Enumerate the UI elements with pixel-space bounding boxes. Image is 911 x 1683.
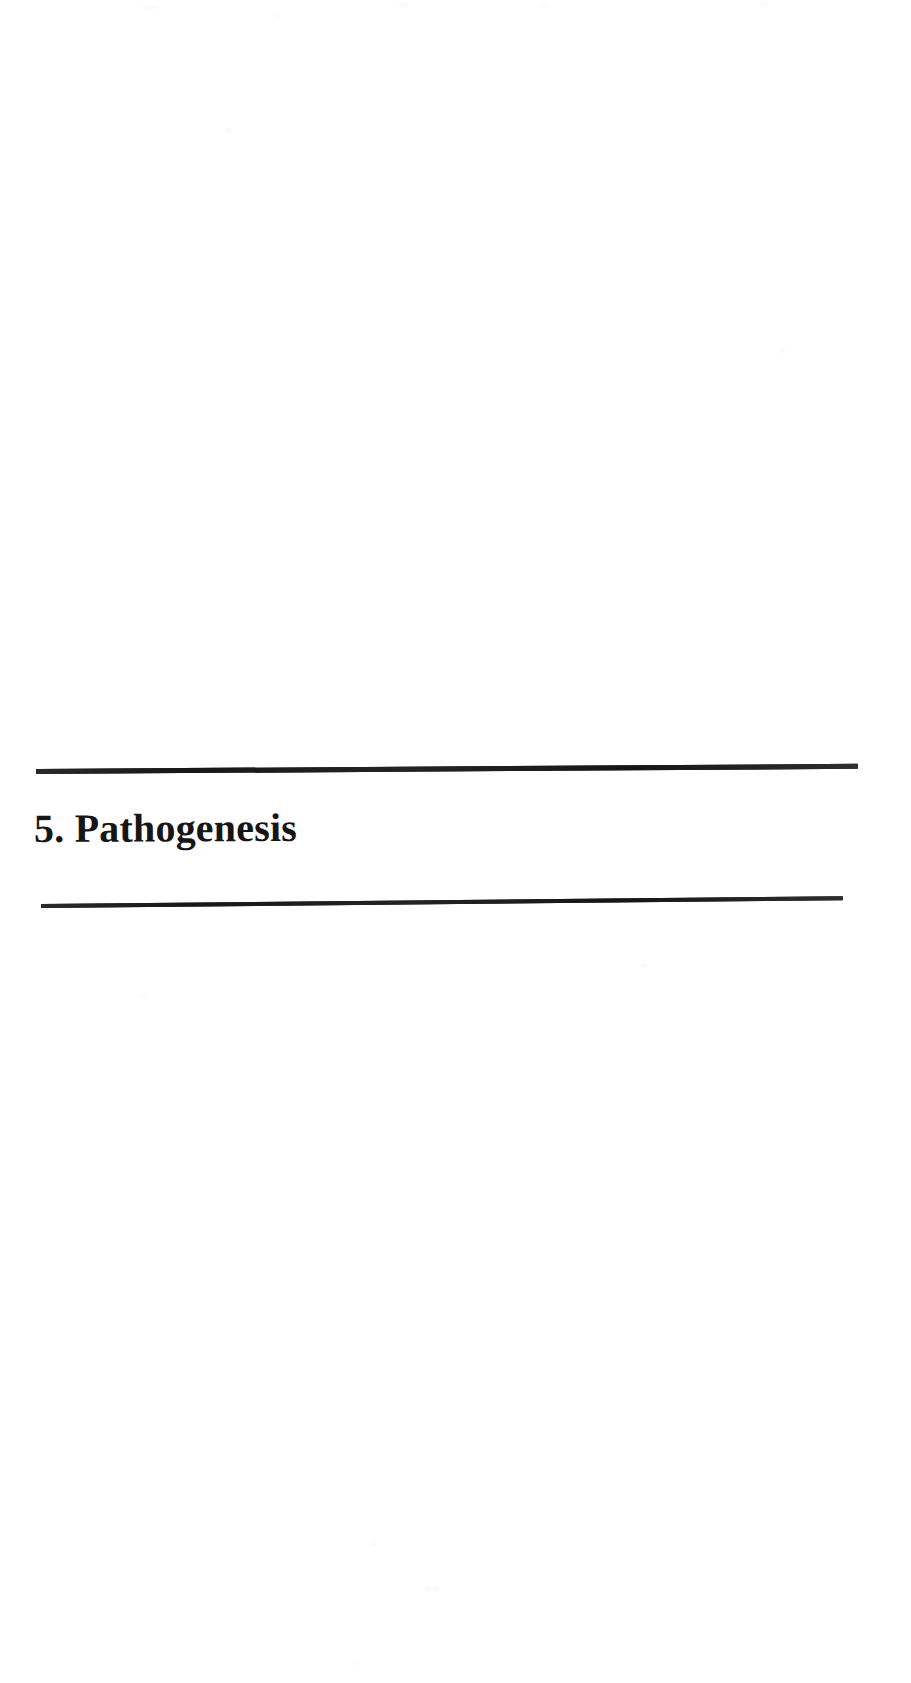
scan-speck [355, 1658, 360, 1667]
top-divider-rule [36, 764, 858, 774]
scan-speck [640, 963, 646, 968]
scan-speck [398, 2, 408, 7]
section-heading: 5. Pathogenesis [34, 805, 297, 852]
document-page: 5. Pathogenesis [0, 0, 911, 1683]
scan-speck [140, 993, 146, 998]
bottom-divider-rule [41, 896, 843, 907]
scan-speck [780, 348, 785, 353]
chapter-section-divider: 5. Pathogenesis [0, 690, 911, 930]
scan-speck [140, 5, 158, 10]
scan-speck [225, 128, 232, 133]
scan-speck [760, 2, 769, 7]
scan-speck [540, 4, 549, 9]
scan-speck [372, 1540, 377, 1547]
scan-speck [425, 1586, 439, 1593]
scan-speck [274, 15, 280, 19]
